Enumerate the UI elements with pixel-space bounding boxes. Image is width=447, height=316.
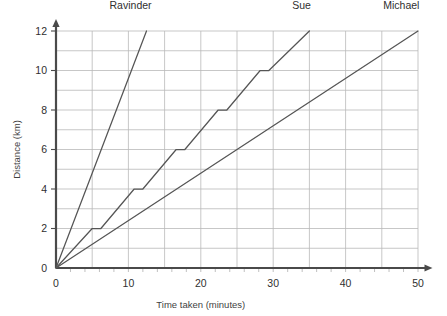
x-tick-label: 20 — [195, 277, 207, 289]
series-label-ravinder: Ravinder — [110, 0, 153, 11]
x-tick-label: 50 — [412, 277, 424, 289]
x-axis-title: Time taken (minutes) — [156, 299, 245, 310]
y-tick-label: 12 — [35, 25, 47, 37]
tick-labels: 02468101201020304050 — [35, 25, 424, 289]
y-tick-label: 8 — [41, 104, 47, 116]
series-label-sue: Sue — [292, 0, 311, 11]
x-tick-label: 30 — [267, 277, 279, 289]
series-labels: RavinderSueMichael — [110, 0, 420, 11]
y-tick-label: 2 — [41, 222, 47, 234]
x-tick-label: 40 — [340, 277, 352, 289]
y-tick-label: 6 — [41, 143, 47, 155]
x-tick-label: 10 — [123, 277, 135, 289]
x-tick-label: 0 — [53, 277, 59, 289]
chart-canvas: 02468101201020304050 RavinderSueMichael … — [0, 0, 447, 316]
y-axis-title: Distance (km) — [11, 120, 22, 179]
y-axis-arrowhead — [52, 19, 59, 27]
x-axis-arrowhead — [424, 264, 432, 271]
distance-time-chart: 02468101201020304050 RavinderSueMichael … — [0, 0, 447, 316]
y-tick-label: 4 — [41, 183, 47, 195]
y-tick-label: 0 — [41, 262, 47, 274]
series-label-michael: Michael — [383, 0, 419, 11]
y-tick-label: 10 — [35, 64, 47, 76]
